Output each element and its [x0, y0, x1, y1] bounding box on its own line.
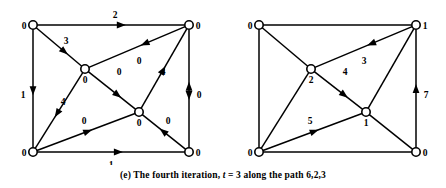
graph-node[interactable]: 0	[185, 148, 201, 158]
edge-label: 4	[161, 67, 166, 77]
edge-line	[36, 28, 82, 67]
edge-arrowhead	[30, 86, 37, 95]
flow-network-left: 21304040010000000	[21, 10, 202, 165]
graph-edge	[369, 115, 412, 150]
graph-node[interactable]: 1	[412, 21, 428, 31]
graph-edge: 3	[315, 27, 412, 68]
graph-edge: 5	[263, 113, 362, 150]
edge-line	[88, 72, 135, 110]
edge-label: 4	[343, 67, 348, 77]
node-circle[interactable]	[135, 108, 143, 116]
graph-node[interactable]: 0	[81, 65, 89, 85]
figure-caption: (e) The fourth iteration, t = 3 along th…	[120, 170, 326, 180]
edge-arrowhead	[83, 130, 93, 136]
graph-node[interactable]: 0	[22, 21, 38, 31]
edge-arrowhead	[413, 84, 420, 93]
graph-edge: 0	[88, 67, 135, 109]
edge-arrowhead	[117, 22, 126, 29]
node-circle[interactable]	[29, 148, 37, 156]
graph-edge: 7	[413, 29, 429, 148]
edge-arrowhead	[309, 130, 319, 136]
edge-arrowhead	[367, 39, 377, 46]
edge-line	[261, 73, 309, 149]
caption-text-2: = 3 along the path 6,2,3	[228, 170, 326, 180]
graph-canvas: 213040400100000003457012100	[0, 0, 446, 165]
edge-line	[262, 28, 308, 67]
graph-edge: 4	[35, 73, 83, 149]
graph-edge	[262, 28, 308, 67]
node-label: 1	[423, 21, 428, 31]
node-circle[interactable]	[412, 148, 420, 156]
graph-node[interactable]: 1	[362, 108, 370, 128]
node-label: 2	[309, 75, 314, 85]
edge-label: 0	[82, 116, 87, 126]
edge-label: 2	[113, 10, 118, 20]
node-circle[interactable]	[185, 148, 193, 156]
caption-wrapper: (e) The fourth iteration, t = 3 along th…	[0, 164, 446, 182]
node-label: 0	[22, 21, 27, 31]
graph-node[interactable]: 2	[307, 65, 315, 85]
graph-node[interactable]: 0	[185, 21, 201, 31]
graph-edge: 0	[89, 27, 185, 68]
edge-arrowhead	[114, 149, 123, 156]
figure-container: 213040400100000003457012100 (e) The four…	[0, 0, 446, 188]
node-label: 0	[248, 21, 253, 31]
graph-node[interactable]: 0	[248, 21, 264, 31]
graph-edge: 1	[37, 149, 185, 165]
edge-line	[368, 29, 414, 109]
graph-edge: 0	[37, 113, 135, 150]
edge-label: 5	[308, 116, 313, 126]
edge-label: 3	[362, 56, 367, 66]
graph-node[interactable]: 0	[412, 148, 428, 158]
node-circle[interactable]	[412, 21, 420, 29]
edge-arrowhead	[55, 108, 63, 117]
caption-text-1: The fourth iteration,	[133, 170, 220, 180]
node-label: 0	[22, 148, 27, 158]
graph-edge	[261, 73, 309, 149]
graph-edge	[368, 29, 414, 109]
edge-arrowhead	[186, 91, 193, 100]
node-label: 0	[423, 148, 428, 158]
edge-label: 7	[424, 90, 429, 100]
edge-label: 0	[137, 56, 142, 66]
caption-variable: t	[223, 170, 226, 180]
edge-arrowhead	[186, 82, 193, 91]
graph-edge: 1	[21, 29, 37, 148]
graph-edge: 2	[37, 10, 185, 28]
graph-edge: 4	[314, 67, 362, 109]
graph-edge: 0	[142, 115, 185, 150]
edge-line	[369, 115, 412, 150]
node-label: 0	[83, 75, 88, 85]
node-circle[interactable]	[185, 21, 193, 29]
graph-node[interactable]: 0	[22, 148, 38, 158]
graph-edge: 3	[36, 28, 82, 67]
node-label: 0	[196, 148, 201, 158]
node-label: 0	[248, 148, 253, 158]
edge-label: 3	[64, 36, 69, 46]
edge-arrowhead	[141, 39, 151, 46]
caption-prefix: (e)	[120, 170, 131, 180]
edge-label: 0	[166, 116, 171, 126]
flow-network-right: 3457012100	[248, 21, 429, 158]
node-circle[interactable]	[81, 65, 89, 73]
node-circle[interactable]	[29, 21, 37, 29]
node-label: 1	[364, 118, 369, 128]
edge-label: 1	[21, 90, 26, 100]
node-label: 0	[196, 21, 201, 31]
edge-label: 0	[117, 67, 122, 77]
node-circle[interactable]	[307, 65, 315, 73]
graph-node[interactable]: 0	[135, 108, 143, 128]
edge-line	[314, 72, 362, 110]
node-label: 0	[137, 118, 142, 128]
edge-label: 4	[61, 97, 66, 107]
node-circle[interactable]	[255, 21, 263, 29]
node-circle[interactable]	[255, 148, 263, 156]
node-circle[interactable]	[362, 108, 370, 116]
graph-pair: 213040400100000003457012100	[0, 0, 446, 165]
edge-label: 0	[197, 90, 202, 100]
graph-edge: 0	[186, 29, 202, 148]
graph-node[interactable]: 0	[248, 148, 264, 158]
